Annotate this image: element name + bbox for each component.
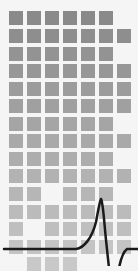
grid-square: [27, 117, 41, 131]
grid-square: [99, 187, 113, 201]
grid-square: [27, 47, 41, 61]
grid-square: [99, 222, 113, 236]
grid-square: [81, 11, 95, 25]
grid-square: [81, 169, 95, 183]
grid-square: [63, 187, 77, 201]
grid-square: [27, 82, 41, 96]
grid-square: [27, 99, 41, 113]
grid-square: [99, 134, 113, 148]
grid-square: [9, 152, 23, 166]
grid-square: [45, 11, 59, 25]
grid-square: [45, 257, 59, 271]
grid-square: [27, 134, 41, 148]
grid-square: [63, 47, 77, 61]
grid-square: [81, 205, 95, 219]
grid-square: [99, 240, 113, 254]
grid-square: [63, 11, 77, 25]
grid-square: [45, 169, 59, 183]
grid-square: [27, 64, 41, 78]
grid-square: [81, 99, 95, 113]
grid-square: [45, 240, 59, 254]
grid-square: [63, 257, 77, 271]
grid-square: [63, 222, 77, 236]
grid-square: [63, 29, 77, 43]
grid-square: [27, 169, 41, 183]
grid-square: [99, 82, 113, 96]
grid-square: [117, 169, 131, 183]
grid-square: [45, 99, 59, 113]
grid-square: [117, 222, 131, 236]
grid-square: [99, 47, 113, 61]
grid-square: [9, 134, 23, 148]
grid-square: [63, 117, 77, 131]
grid-square: [45, 222, 59, 236]
grid-square: [27, 152, 41, 166]
grid-square: [45, 205, 59, 219]
grid-square: [9, 64, 23, 78]
grid-square: [81, 82, 95, 96]
grid-square: [63, 169, 77, 183]
grid-square: [27, 187, 41, 201]
grid-square: [81, 29, 95, 43]
grid-square: [9, 205, 23, 219]
grid-square: [45, 47, 59, 61]
grid-square: [63, 205, 77, 219]
grid-square: [99, 205, 113, 219]
grid-square: [9, 169, 23, 183]
grid-square: [81, 222, 95, 236]
grid-square: [9, 47, 23, 61]
grid-square: [99, 117, 113, 131]
grid-square: [45, 134, 59, 148]
grid-square: [117, 205, 131, 219]
grid-square: [63, 152, 77, 166]
grid-square: [117, 134, 131, 148]
grid-square: [81, 152, 95, 166]
grid-square: [63, 82, 77, 96]
grid-square: [27, 240, 41, 254]
grid-square: [117, 99, 131, 113]
grid-square: [45, 29, 59, 43]
grid-square: [9, 240, 23, 254]
grid-square: [99, 64, 113, 78]
grid-square: [63, 64, 77, 78]
grid-square: [27, 257, 41, 271]
grid-square: [27, 11, 41, 25]
grid-square: [45, 64, 59, 78]
grid-square: [45, 152, 59, 166]
grid-square: [81, 134, 95, 148]
grid-square: [81, 117, 95, 131]
grid-square: [9, 117, 23, 131]
grid-square: [9, 29, 23, 43]
grid-square: [117, 64, 131, 78]
grid-square: [63, 134, 77, 148]
grid-square: [99, 152, 113, 166]
grid-square: [81, 47, 95, 61]
grid-square: [99, 169, 113, 183]
grid-square: [117, 29, 131, 43]
grid-square: [9, 187, 23, 201]
grid-square: [99, 11, 113, 25]
grid-square: [45, 82, 59, 96]
grid-square: [9, 222, 23, 236]
grid-square: [99, 99, 113, 113]
grid-square: [45, 117, 59, 131]
grid-square: [63, 240, 77, 254]
grid-square: [117, 82, 131, 96]
grid-square: [27, 205, 41, 219]
grid-square: [81, 64, 95, 78]
grid-square: [9, 99, 23, 113]
grid-square: [81, 187, 95, 201]
grid-square: [9, 82, 23, 96]
grid-square: [99, 29, 113, 43]
grid-square: [81, 240, 95, 254]
grid-square: [117, 240, 131, 254]
grid-square: [63, 99, 77, 113]
grid-square: [9, 11, 23, 25]
grid-square: [27, 29, 41, 43]
